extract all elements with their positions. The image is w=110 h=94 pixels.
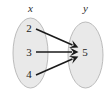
domain-set-label: x	[27, 2, 33, 14]
mapping-diagram: x y 2 3 4 5	[0, 0, 110, 94]
domain-element-2: 2	[26, 22, 32, 34]
domain-element-3: 3	[26, 46, 32, 58]
domain-element-4: 4	[26, 68, 32, 80]
codomain-set-label: y	[82, 2, 88, 14]
codomain-element-5: 5	[82, 46, 88, 58]
diagram-canvas: x y 2 3 4 5	[0, 0, 110, 94]
